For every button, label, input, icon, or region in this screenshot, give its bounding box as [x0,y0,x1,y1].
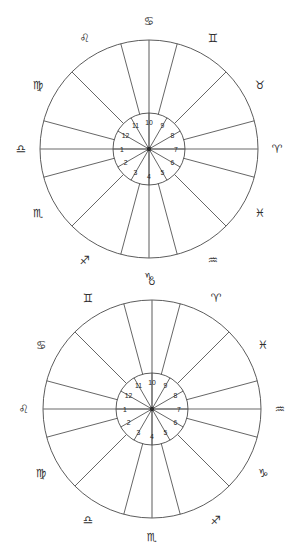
sign-glyph-libra: ♎ [83,513,93,527]
sign-glyph-aries: ♈ [272,142,283,156]
sector-divider-line [44,158,115,177]
sign-glyph-taurus: ♉ [147,280,157,288]
sector-divider-line [174,72,226,124]
sign-glyph-cancer: ♋ [36,338,46,352]
house-number-12: 12 [122,132,130,139]
sign-glyph-cancer: ♋ [144,14,154,28]
sector-divider-line [72,174,124,226]
sign-glyph-scorpio: ♏ [33,206,43,220]
house-number-8: 8 [170,132,174,139]
house-number-4: 4 [147,173,151,180]
house-number-1: 1 [120,146,124,153]
sector-divider-line [124,304,143,375]
sector-divider-line [161,444,180,515]
sign-glyph-libra: ♎ [16,142,26,156]
zodiac-wheel-chart-1: ♈7♓6♒5♑4♐3♏2♎1♍12♌11♋10♊9♉8 [0,0,298,280]
sign-glyph-scorpio: ♏ [147,530,157,544]
house-number-5: 5 [161,169,165,176]
sector-divider-line [158,184,177,255]
sign-glyph-aquarius: ♒ [208,253,218,267]
sign-glyph-sagittarius: ♐ [80,253,90,267]
sector-divider-line [158,44,177,115]
wheel-center-hub [150,407,154,411]
house-number-4: 4 [150,433,154,440]
sign-glyph-aquarius: ♒ [275,402,285,416]
house-number-1: 1 [123,406,127,413]
sector-divider-line [75,332,127,384]
house-number-2: 2 [124,159,128,166]
sector-divider-line [184,158,255,177]
house-number-6: 6 [173,419,177,426]
house-number-7: 7 [174,146,178,153]
chart-2-canvas: ♒7♑6♐5♏4♎3♍2♌1♋12♊11♉10♈9♓8 [0,280,298,551]
sector-divider-line [47,381,118,400]
sector-divider-line [44,121,115,140]
sector-divider-line [72,72,124,124]
house-number-2: 2 [127,419,131,426]
sign-glyph-leo: ♌ [80,31,90,45]
sign-glyph-capricorn: ♑ [258,466,268,480]
sign-glyph-aries: ♈ [211,291,222,305]
sector-divider-line [187,381,258,400]
house-number-3: 3 [134,169,138,176]
sign-glyph-pisces: ♓ [255,206,265,220]
sign-glyph-virgo: ♍ [33,78,43,92]
house-number-11: 11 [135,382,142,389]
sector-divider-line [187,418,258,437]
sector-divider-line [121,44,140,115]
sign-glyph-capricorn: ♑ [144,270,154,280]
sector-divider-line [177,434,229,486]
sector-divider-line [174,174,226,226]
house-number-10: 10 [145,119,153,126]
house-number-12: 12 [125,392,133,399]
house-number-6: 6 [170,159,174,166]
chart-1-canvas: ♈7♓6♒5♑4♐3♏2♎1♍12♌11♋10♊9♉8 [0,0,298,280]
sector-divider-line [75,434,127,486]
sector-divider-line [161,304,180,375]
sector-divider-line [121,184,140,255]
house-number-9: 9 [161,122,165,129]
sign-glyph-pisces: ♓ [258,338,268,352]
house-number-3: 3 [137,429,141,436]
sector-divider-line [47,418,118,437]
house-number-11: 11 [132,122,139,129]
sign-glyph-gemini: ♊ [83,291,93,305]
house-number-9: 9 [164,382,168,389]
sign-glyph-virgo: ♍ [36,466,46,480]
house-number-10: 10 [148,379,156,386]
sign-glyph-gemini: ♊ [208,31,218,45]
wheel-center-hub [147,147,151,151]
house-number-7: 7 [177,406,181,413]
sector-divider-line [124,444,143,515]
house-number-8: 8 [173,392,177,399]
sign-glyph-taurus: ♉ [255,78,265,92]
zodiac-wheel-chart-2: ♒7♑6♐5♏4♎3♍2♌1♋12♊11♉10♈9♓8 [0,280,298,551]
sector-divider-line [177,332,229,384]
sign-glyph-leo: ♌ [19,402,29,416]
sector-divider-line [184,121,255,140]
sign-glyph-sagittarius: ♐ [211,513,221,527]
house-number-5: 5 [164,429,168,436]
